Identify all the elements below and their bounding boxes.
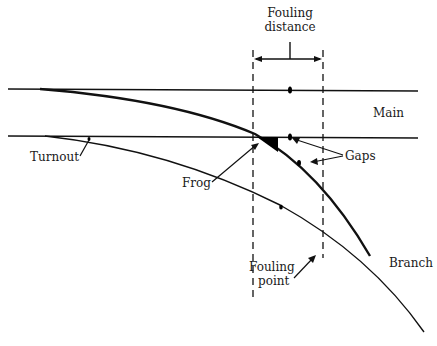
turnout-inner-rail <box>45 136 424 332</box>
label-fouling-distance-2: distance <box>264 20 315 34</box>
frog-leader <box>212 145 256 182</box>
turnout-diagram: Fouling distance Main Turnout Gaps Frog … <box>0 0 437 346</box>
joint-marker-inner <box>279 205 283 210</box>
arrowhead-left-icon <box>254 56 262 62</box>
label-frog: Frog <box>182 176 211 190</box>
turnout-leader <box>80 140 89 156</box>
fouling-point-leader <box>294 258 313 278</box>
label-fouling-point-1: Fouling <box>249 260 295 274</box>
gap-marker-branch <box>297 160 301 166</box>
label-fouling-distance-1: Fouling <box>267 6 313 20</box>
arrowhead-right-icon <box>314 56 322 62</box>
frog-shape <box>257 137 278 152</box>
label-turnout: Turnout <box>30 150 79 164</box>
label-gaps: Gaps <box>345 149 376 163</box>
gap-marker-lower <box>288 134 292 141</box>
gaps-leader-upper <box>294 139 343 155</box>
label-branch: Branch <box>389 256 433 270</box>
gaps-leader-lower <box>313 156 343 162</box>
gap-marker-upper <box>288 87 292 94</box>
gaps-arrowhead-lower-icon <box>310 158 318 165</box>
label-main: Main <box>373 106 404 120</box>
label-fouling-point-2: point <box>258 274 289 288</box>
main-lower-rail <box>8 136 418 138</box>
